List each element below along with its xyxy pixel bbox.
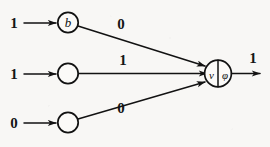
weight-label-2: 1 bbox=[119, 52, 127, 68]
input-value-2: 1 bbox=[10, 66, 18, 82]
weight-label-3: 0 bbox=[117, 100, 125, 116]
output-node[interactable]: ν φ bbox=[205, 60, 232, 87]
input-value-1: 1 bbox=[10, 15, 18, 31]
edge-1 bbox=[78, 26, 205, 66]
input-node-2[interactable] bbox=[58, 63, 78, 83]
input-row-3: 0 0 bbox=[10, 82, 205, 133]
input-node-1-label: b bbox=[65, 15, 72, 30]
input-node-3[interactable] bbox=[58, 112, 78, 132]
input-value-3: 0 bbox=[10, 115, 18, 131]
output-value: 1 bbox=[249, 50, 257, 66]
output-row: 1 bbox=[232, 50, 261, 74]
diagram-canvas: 1 b 0 1 1 0 0 bbox=[0, 0, 270, 147]
weight-label-1: 0 bbox=[117, 16, 125, 32]
edge-3 bbox=[78, 82, 205, 119]
input-row-1: 1 b 0 bbox=[10, 12, 205, 66]
figure-root: 1 b 0 1 1 0 0 bbox=[0, 0, 270, 147]
output-node-right-symbol: φ bbox=[222, 69, 228, 81]
output-node-left-symbol: ν bbox=[209, 69, 214, 81]
